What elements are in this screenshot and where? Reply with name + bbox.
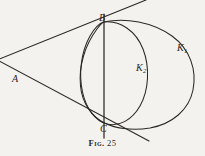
curve-k2-ellipse	[81, 22, 148, 125]
label-point-c: C	[100, 124, 107, 134]
label-curve-k1-subscript: 1	[184, 47, 187, 54]
tangent-line-lower	[0, 62, 149, 142]
tangent-line-upper	[0, 0, 146, 59]
label-point-a: A	[12, 74, 18, 84]
label-curve-k2-subscript: 2	[143, 67, 146, 74]
label-curve-k2-base: K	[136, 62, 143, 73]
figure-caption-number: 25	[107, 138, 116, 148]
label-curve-k1-base: K	[177, 42, 184, 53]
figure-container: A B C K1 K2 Fig. 25	[0, 0, 205, 156]
figure-caption-prefix: Fig.	[89, 138, 105, 148]
label-curve-k2: K2	[136, 63, 146, 73]
figure-caption: Fig. 25	[0, 138, 205, 148]
label-point-b: B	[99, 13, 105, 23]
label-curve-k1: K1	[177, 43, 187, 53]
